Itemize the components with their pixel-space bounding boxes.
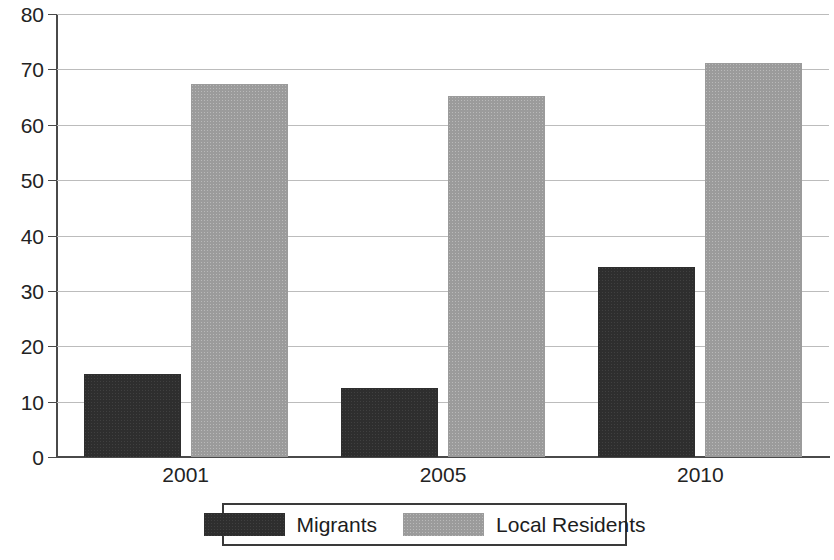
dark-swatch — [204, 513, 285, 536]
y-tick-mark — [48, 125, 57, 126]
y-tick-label: 30 — [21, 280, 44, 301]
y-tick-label: 70 — [21, 59, 44, 80]
legend-entry-migrants: Migrants — [204, 513, 378, 536]
bar-local-residents-2010 — [705, 63, 802, 457]
y-tick-mark — [48, 14, 57, 15]
y-tick-mark — [48, 180, 57, 181]
legend-label-migrants: Migrants — [297, 514, 378, 535]
y-tick-label: 10 — [21, 391, 44, 412]
y-tick-label: 60 — [21, 114, 44, 135]
bar-migrants-2001 — [84, 374, 181, 457]
x-tick-label: 2010 — [677, 464, 724, 485]
chart-legend: Migrants Local Residents — [222, 503, 627, 546]
y-tick-mark — [48, 69, 57, 70]
y-tick-label: 40 — [21, 225, 44, 246]
light-swatch — [403, 513, 484, 536]
x-tick-label: 2005 — [420, 464, 467, 485]
y-tick-mark — [48, 402, 57, 403]
legend-label-local-residents: Local Residents — [496, 514, 645, 535]
y-tick-mark — [48, 236, 57, 237]
y-tick-mark — [48, 457, 57, 458]
y-tick-mark — [48, 291, 57, 292]
legend-entry-local-residents: Local Residents — [403, 513, 645, 536]
bar-local-residents-2001 — [191, 84, 288, 457]
y-tick-label: 20 — [21, 336, 44, 357]
plot-area: 01020304050607080 — [57, 14, 829, 457]
bar-local-residents-2005 — [448, 96, 545, 457]
bar-migrants-2005 — [341, 388, 438, 457]
bar-chart: 01020304050607080 200120052010 Migrants … — [0, 0, 834, 560]
bar-migrants-2010 — [598, 267, 695, 457]
y-tick-label: 50 — [21, 170, 44, 191]
y-tick-mark — [48, 346, 57, 347]
bars-layer — [57, 14, 829, 457]
x-tick-label: 2001 — [162, 464, 209, 485]
y-tick-label: 80 — [21, 4, 44, 25]
y-tick-label: 0 — [32, 447, 44, 468]
